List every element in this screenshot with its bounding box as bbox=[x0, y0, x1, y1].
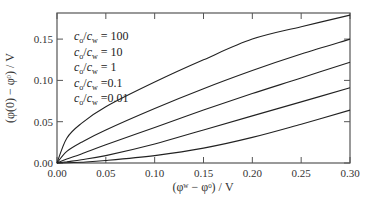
x-tick-label: 0.25 bbox=[292, 167, 312, 179]
x-tick-label: 0.10 bbox=[145, 167, 165, 179]
legend-entry: co/cw =0.01 bbox=[74, 91, 129, 107]
y-tick-label: 0.05 bbox=[34, 116, 54, 128]
legend: co/cw = 100co/cw = 10co/cw = 1co/cw =0.1… bbox=[74, 29, 129, 107]
x-tick-label: 0.05 bbox=[96, 167, 116, 179]
legend-entry: co/cw =0.1 bbox=[74, 76, 123, 92]
y-tick-labels: 0.000.050.100.15 bbox=[34, 33, 54, 169]
x-tick-label: 0.15 bbox=[194, 167, 214, 179]
y-axis-label: (φ(0) − φᵒ) / V bbox=[3, 53, 17, 123]
line-chart: 0.000.050.100.150.200.250.30 0.000.050.1… bbox=[0, 0, 367, 205]
x-tick-labels: 0.000.050.100.150.200.250.30 bbox=[47, 167, 360, 179]
legend-entry: co/cw = 1 bbox=[74, 60, 117, 76]
curve-series-4 bbox=[57, 110, 350, 163]
y-tick-label: 0.00 bbox=[34, 157, 54, 169]
legend-entry: co/cw = 10 bbox=[74, 45, 123, 61]
x-axis-label: (φʷ − φᵒ) / V bbox=[172, 180, 234, 194]
x-tick-label: 0.20 bbox=[243, 167, 263, 179]
x-tick-label: 0.30 bbox=[340, 167, 360, 179]
y-tick-label: 0.10 bbox=[34, 74, 54, 86]
legend-entry: co/cw = 100 bbox=[74, 29, 129, 45]
y-tick-label: 0.15 bbox=[34, 33, 54, 45]
